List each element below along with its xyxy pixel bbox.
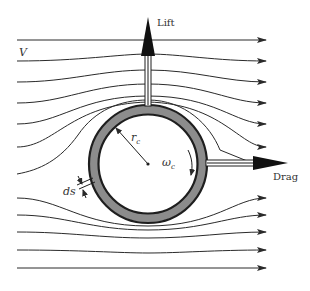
lift-vector: Lift — [141, 17, 175, 106]
drag-vector: Drag — [206, 156, 299, 182]
magnus-effect-diagram: rc ωc Lift Drag ds V — [0, 0, 310, 291]
velocity-label: V — [19, 46, 28, 59]
lift-arrowhead-icon — [141, 17, 155, 56]
streamline — [17, 250, 266, 253]
ds-element: ds — [63, 176, 95, 198]
ds-arrow-down-icon — [78, 176, 82, 184]
drag-label: Drag — [273, 171, 299, 182]
drag-arrowhead-icon — [253, 156, 288, 170]
ds-label: ds — [63, 185, 76, 198]
lift-label: Lift — [157, 17, 175, 28]
streamline — [17, 70, 266, 82]
streamline — [17, 232, 266, 238]
ds-arrow-up-icon — [83, 190, 86, 198]
